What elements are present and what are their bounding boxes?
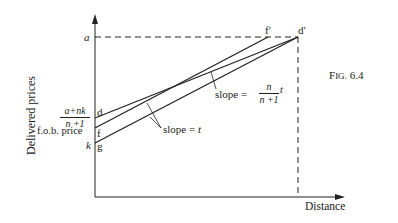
tick-fob-price: f.o.b. price	[37, 126, 82, 137]
y-axis-label: Delivered prices	[24, 71, 39, 161]
point-g: g	[97, 141, 103, 152]
slope-fraction-numerator: n	[259, 82, 279, 94]
figure-label-number: 6.4	[350, 69, 364, 81]
slope-fraction-denominator: n +1	[259, 94, 279, 105]
y-axis-arrow-icon	[92, 14, 98, 24]
x-axis-label: Distance	[305, 201, 345, 213]
annotation-slope-t-text: slope =	[163, 123, 195, 135]
tick-fraction-numerator: a+nk	[60, 106, 90, 118]
point-f: f	[97, 128, 101, 139]
figure-label: FIG. 6.4	[329, 69, 363, 81]
line-d-dprime	[95, 37, 298, 118]
leader-slope-t-1	[147, 103, 161, 128]
point-d-prime: d′	[298, 25, 306, 36]
point-d: d	[97, 107, 103, 118]
annotation-slope-fraction: n n +1	[259, 82, 279, 105]
figure-label-rest: IG.	[335, 71, 347, 81]
annotation-slope-frac-prefix: slope =	[215, 89, 247, 100]
annotation-slope-frac-var: t	[280, 85, 283, 95]
point-f-prime: f′	[265, 25, 271, 36]
tick-k: k	[86, 140, 91, 151]
line-f-fprime	[95, 37, 268, 128]
annotation-slope-t: slope = t	[163, 124, 201, 135]
annotation-slope-t-var: t	[198, 123, 201, 135]
tick-a: a	[84, 32, 90, 43]
